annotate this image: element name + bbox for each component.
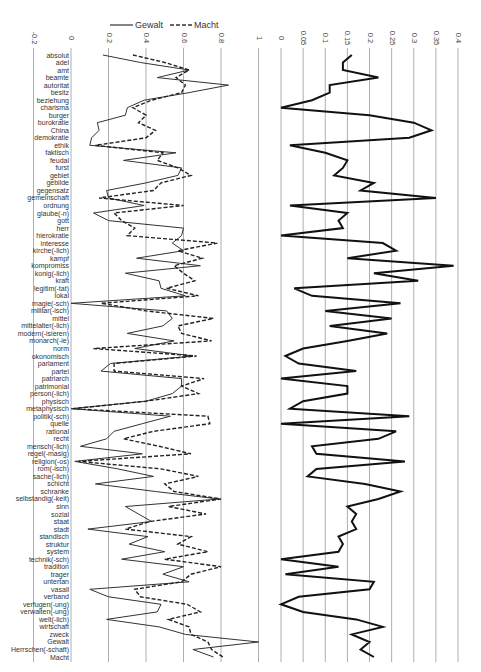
category-label: zweck (50, 631, 70, 638)
series-lines (71, 55, 454, 657)
tick-label: 0.1 (321, 33, 330, 43)
category-label: stadt (54, 526, 69, 533)
category-label: herr (57, 225, 70, 232)
legend-macht-label: Macht (194, 20, 219, 30)
tick-label: 0.2 (105, 33, 114, 43)
legend-gewalt-label: Gewalt (135, 20, 164, 30)
category-label: Gewalt (47, 638, 69, 645)
category-label: burokratie (38, 119, 69, 126)
category-label: hierokratie (36, 232, 69, 239)
category-label: charisma (41, 104, 70, 111)
chart-canvas: Gewalt Macht -0.200.20.40.60.8100.050.10… (0, 0, 481, 672)
category-label: staat (54, 518, 69, 525)
category-label: tradition (44, 563, 69, 570)
category-label: rational (46, 428, 69, 435)
tick-label: 0 (277, 36, 286, 40)
category-label: norm (53, 345, 69, 352)
tick-label: 0.2 (366, 33, 375, 43)
category-label: ethik (54, 142, 69, 149)
category-label: standisch (39, 533, 69, 540)
tick-label: 1 (255, 36, 264, 40)
tick-label: -0.2 (30, 32, 39, 45)
category-label: untertan (43, 578, 69, 585)
gridlines (34, 48, 459, 662)
tick-label: 0.15 (343, 31, 352, 46)
category-label: autoritat (44, 82, 69, 89)
category-label: feudal (50, 157, 70, 164)
category-label: schranke (41, 488, 70, 495)
category-label: vasall (51, 586, 69, 593)
category-label: adel (56, 59, 70, 66)
category-label: verband (44, 593, 69, 600)
legend: Gewalt Macht (110, 20, 219, 30)
tick-label: 0.4 (454, 33, 463, 43)
category-label: furst (55, 164, 69, 171)
category-label: amt (57, 67, 69, 74)
category-label: sozial (51, 511, 69, 518)
category-label: sinn (56, 503, 69, 510)
category-labels: absolutadelamtbeamteautoritatbesitzbezie… (11, 52, 70, 661)
series-difference-line (281, 55, 454, 657)
category-label: wirtschaft (38, 623, 69, 630)
category-label: beamte (46, 74, 69, 81)
category-label: besitz (51, 89, 70, 96)
category-label: struktur (46, 541, 70, 548)
axis-ticks: -0.200.20.40.60.8100.050.10.150.20.250.3… (30, 31, 464, 46)
tick-label: 0.25 (388, 31, 397, 46)
category-label: interesse (41, 240, 70, 247)
category-label: absolut (46, 52, 69, 59)
tick-label: 0.8 (217, 33, 226, 43)
series-macht-line (73, 55, 223, 657)
category-label: okonomisch (32, 353, 69, 360)
category-label: mittel (52, 315, 69, 322)
tick-label: 0.05 (299, 31, 308, 46)
category-label: recht (53, 435, 69, 442)
category-label: lokal (55, 292, 70, 299)
category-label: Macht (50, 654, 69, 661)
category-label: kraft (55, 277, 69, 284)
tick-label: 0 (67, 36, 76, 40)
tick-label: 0.6 (180, 33, 189, 43)
category-label: demokratie (34, 134, 69, 141)
tick-label: 0.3 (410, 33, 419, 43)
category-label: faktisch (45, 149, 69, 156)
tick-label: 0.35 (432, 31, 441, 46)
tick-label: 0.4 (142, 33, 151, 43)
category-label: China (51, 127, 69, 134)
category-label: schicht (47, 480, 69, 487)
